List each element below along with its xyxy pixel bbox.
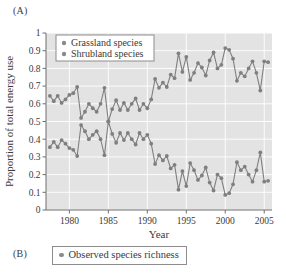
y-tick-label: 0.5 bbox=[29, 117, 41, 127]
data-point bbox=[126, 131, 130, 135]
data-point bbox=[165, 154, 169, 158]
data-point bbox=[122, 101, 126, 105]
data-point bbox=[87, 102, 91, 106]
data-point bbox=[235, 160, 239, 164]
data-point bbox=[235, 79, 239, 83]
data-point bbox=[122, 138, 126, 142]
panel-b-legend: Observed species richness bbox=[52, 246, 187, 265]
data-point bbox=[184, 55, 188, 59]
data-point bbox=[110, 107, 114, 111]
data-point bbox=[64, 97, 68, 101]
data-point bbox=[71, 148, 75, 152]
data-point bbox=[216, 173, 220, 177]
data-point bbox=[103, 153, 107, 157]
y-tick-label: 0 bbox=[36, 205, 41, 215]
data-point bbox=[188, 161, 192, 165]
data-point bbox=[184, 184, 188, 188]
data-point bbox=[157, 153, 161, 157]
data-point bbox=[204, 166, 208, 170]
data-point bbox=[247, 67, 251, 71]
data-point bbox=[118, 108, 122, 112]
data-point bbox=[208, 59, 212, 63]
data-point bbox=[79, 116, 83, 120]
data-point bbox=[192, 168, 196, 172]
data-point bbox=[258, 151, 262, 155]
data-point bbox=[161, 159, 165, 163]
data-point bbox=[258, 89, 262, 93]
data-point bbox=[266, 60, 270, 64]
data-point bbox=[243, 74, 247, 78]
data-point bbox=[134, 97, 138, 101]
data-point bbox=[192, 71, 196, 75]
x-axis-label: Year bbox=[149, 228, 170, 240]
data-point bbox=[110, 132, 114, 136]
data-point bbox=[173, 76, 177, 80]
data-point bbox=[188, 78, 192, 82]
data-point bbox=[149, 97, 153, 101]
data-point bbox=[177, 188, 181, 192]
data-point bbox=[219, 176, 223, 180]
data-point bbox=[145, 106, 149, 110]
data-point bbox=[196, 61, 200, 65]
legend-label-grassland-species: Grassland species bbox=[71, 37, 142, 48]
data-point bbox=[83, 110, 87, 114]
data-point bbox=[200, 66, 204, 70]
data-point bbox=[56, 94, 60, 98]
panel-b-label: (B) bbox=[13, 248, 27, 259]
data-point bbox=[212, 189, 216, 193]
data-point bbox=[161, 81, 165, 85]
data-point bbox=[106, 120, 110, 124]
data-point bbox=[99, 102, 103, 106]
y-tick-label: 0.7 bbox=[29, 81, 41, 91]
data-point bbox=[52, 99, 56, 103]
y-tick-label: 0.9 bbox=[29, 46, 41, 56]
data-point bbox=[255, 168, 259, 172]
data-point bbox=[262, 180, 266, 184]
legend-label-observed-richness: Observed species richness bbox=[69, 249, 179, 261]
y-tick-label: 0.2 bbox=[29, 170, 41, 180]
data-point bbox=[138, 131, 142, 135]
data-point bbox=[247, 173, 251, 177]
data-point bbox=[223, 193, 227, 197]
data-point bbox=[216, 67, 220, 71]
data-point bbox=[231, 182, 235, 186]
data-point bbox=[219, 63, 223, 67]
data-point bbox=[204, 74, 208, 78]
x-tick-label: 2000 bbox=[216, 216, 235, 226]
data-point bbox=[169, 167, 173, 171]
data-point bbox=[48, 145, 52, 149]
x-tick-label: 1995 bbox=[177, 216, 196, 226]
data-point bbox=[208, 181, 212, 185]
data-point bbox=[95, 129, 99, 133]
chart-legend: Grassland speciesShrubland species bbox=[56, 35, 154, 61]
data-point bbox=[266, 179, 270, 183]
y-tick-label: 0.8 bbox=[29, 64, 41, 74]
y-axis-label: Proportion of total energy use bbox=[3, 56, 15, 187]
data-point bbox=[200, 174, 204, 178]
data-point bbox=[60, 138, 64, 142]
data-point bbox=[255, 71, 259, 75]
data-point bbox=[142, 102, 146, 106]
data-point bbox=[165, 85, 169, 89]
data-point bbox=[118, 131, 122, 135]
legend-label-shrubland-species: Shrubland species bbox=[71, 48, 144, 59]
data-point bbox=[134, 143, 138, 147]
data-point bbox=[64, 142, 68, 146]
data-point bbox=[180, 169, 184, 173]
data-point bbox=[99, 137, 103, 141]
data-point bbox=[138, 108, 142, 112]
data-point bbox=[103, 86, 107, 90]
data-point bbox=[83, 129, 87, 133]
data-point bbox=[177, 51, 181, 55]
data-point bbox=[75, 154, 79, 158]
data-point bbox=[67, 93, 71, 97]
data-point bbox=[149, 142, 153, 146]
data-point bbox=[231, 57, 235, 61]
data-point bbox=[169, 73, 173, 77]
data-point bbox=[130, 137, 134, 141]
data-point bbox=[91, 133, 95, 137]
data-point bbox=[75, 85, 79, 89]
x-tick-label: 1985 bbox=[99, 216, 118, 226]
data-point bbox=[126, 108, 130, 112]
data-point bbox=[145, 133, 149, 137]
